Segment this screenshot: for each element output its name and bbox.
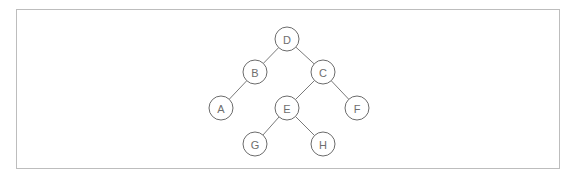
edge-b-a: [229, 81, 247, 100]
tree-node-b: B: [243, 60, 267, 84]
edges-layer: [229, 47, 349, 135]
tree-node-c: C: [311, 60, 335, 84]
tree-node-d: D: [275, 27, 299, 51]
tree-node-e: E: [275, 96, 299, 120]
node-label: C: [319, 67, 327, 79]
node-label: A: [217, 103, 225, 115]
tree-node-g: G: [243, 132, 267, 156]
edge-e-h: [295, 116, 314, 135]
edge-d-c: [296, 47, 314, 64]
edge-c-f: [331, 81, 349, 100]
tree-node-f: F: [345, 96, 369, 120]
node-label: D: [283, 34, 291, 46]
node-label: G: [251, 139, 260, 151]
node-label: F: [354, 103, 361, 115]
binary-tree-diagram: D B C A E F G H: [0, 0, 576, 180]
node-label: B: [251, 67, 258, 79]
edge-e-g: [263, 117, 279, 135]
tree-node-h: H: [311, 132, 335, 156]
node-label: E: [283, 103, 290, 115]
node-label: H: [319, 139, 327, 151]
edge-d-b: [263, 48, 278, 64]
tree-node-a: A: [209, 96, 233, 120]
nodes-layer: D B C A E F G H: [209, 27, 369, 156]
edge-c-e: [295, 80, 314, 99]
